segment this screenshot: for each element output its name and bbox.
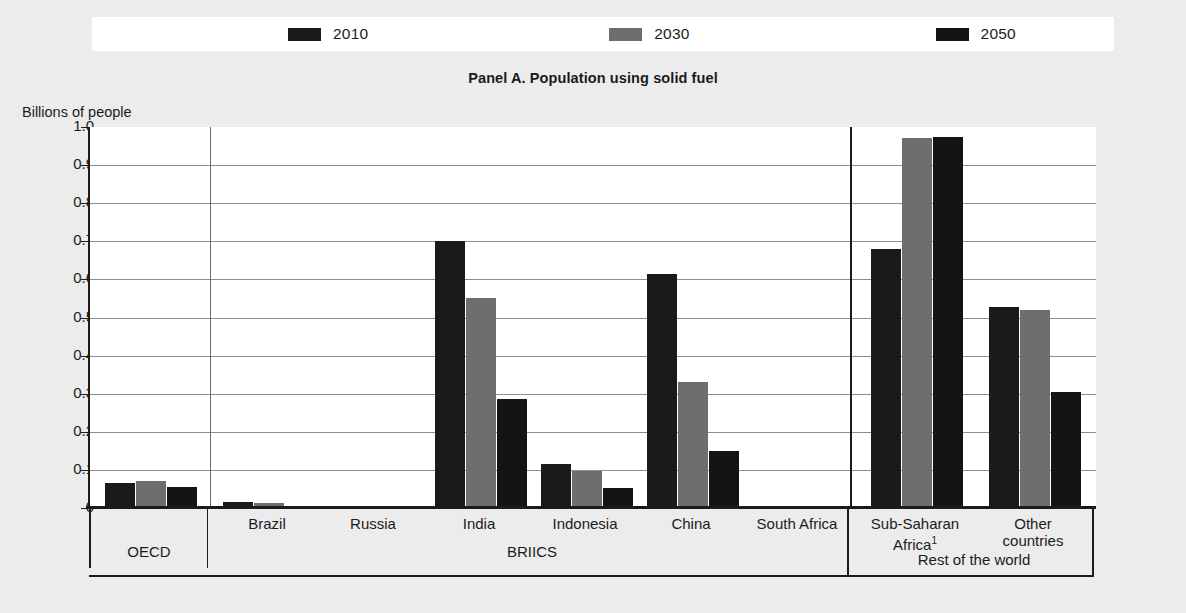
- bar-2050-india: [497, 399, 527, 508]
- bar-2010-china: [647, 274, 677, 508]
- bar-2010-india: [435, 241, 465, 508]
- bar-2030-india: [466, 298, 496, 508]
- y-axis-tick-label: 0.3: [34, 385, 94, 400]
- y-axis-tick-label: 0.6: [34, 270, 94, 285]
- y-axis-tick: [81, 241, 90, 242]
- chart-legend: 2010 2030 2050: [92, 17, 1114, 51]
- bar-2010-oecd: [105, 483, 135, 508]
- bar-2050-othercountries: [1051, 392, 1081, 508]
- legend-item-2050: 2050: [936, 25, 1016, 43]
- y-axis-tick-label: 0: [34, 499, 94, 514]
- x-axis-group-label-restoftheworld: Rest of the world: [864, 551, 1084, 568]
- legend-item-2030: 2030: [609, 25, 689, 43]
- bar-2010-indonesia: [541, 464, 571, 508]
- axis-frame-line: [847, 509, 849, 576]
- bar-2030-othercountries: [1020, 310, 1050, 508]
- y-axis-tick: [81, 470, 90, 471]
- axis-frame-line: [89, 509, 91, 568]
- legend-swatch-2050: [936, 28, 969, 41]
- bar-2010-subsaharanafrica: [871, 249, 901, 508]
- x-axis-labels: BrazilRussiaIndiaIndonesiaChinaSouth Afr…: [88, 509, 1096, 605]
- x-axis-group-label-oecd: OECD: [39, 543, 259, 560]
- bar-2050-indonesia: [603, 488, 633, 508]
- y-axis-tick: [81, 432, 90, 433]
- y-axis-tick-label: 0.5: [34, 309, 94, 324]
- legend-label-2050: 2050: [981, 25, 1016, 43]
- y-axis-tick-label: 0.1: [34, 461, 94, 476]
- y-axis-tick: [81, 279, 90, 280]
- bar-2030-oecd: [136, 481, 166, 508]
- axis-frame-line: [89, 575, 1094, 577]
- x-axis-group-label-briics: BRIICS: [422, 543, 642, 560]
- bar-2030-indonesia: [572, 471, 602, 508]
- y-axis-tick-label: 0.4: [34, 347, 94, 362]
- axis-frame-line: [1092, 509, 1094, 576]
- y-axis-tick-label: 0.9: [34, 156, 94, 171]
- y-axis-tick: [81, 203, 90, 204]
- bar-2030-china: [678, 382, 708, 508]
- legend-label-2030: 2030: [654, 25, 689, 43]
- legend-label-2010: 2010: [333, 25, 368, 43]
- legend-swatch-2030: [609, 28, 642, 41]
- legend-item-2010: 2010: [288, 25, 368, 43]
- bar-2050-china: [709, 451, 739, 508]
- legend-swatch-2010: [288, 28, 321, 41]
- y-axis-tick-label: 0.2: [34, 423, 94, 438]
- y-axis-tick: [81, 318, 90, 319]
- y-axis-tick: [81, 356, 90, 357]
- panel-title: Panel A. Population using solid fuel: [0, 70, 1186, 86]
- axis-frame-line: [207, 509, 208, 568]
- y-axis-tick-label: 0.7: [34, 232, 94, 247]
- y-axis-tick-label: 0.8: [34, 194, 94, 209]
- bar-2030-subsaharanafrica: [902, 138, 932, 508]
- y-axis-tick: [81, 165, 90, 166]
- group-separator: [210, 127, 211, 508]
- y-axis-tick: [81, 394, 90, 395]
- plot-area: [88, 127, 1096, 508]
- bar-2050-subsaharanafrica: [933, 137, 963, 508]
- y-axis-tick: [81, 127, 90, 128]
- y-axis-tick-label: 1.0: [34, 118, 94, 133]
- bar-2050-oecd: [167, 487, 197, 508]
- bar-2010-othercountries: [989, 307, 1019, 508]
- group-separator: [850, 127, 852, 508]
